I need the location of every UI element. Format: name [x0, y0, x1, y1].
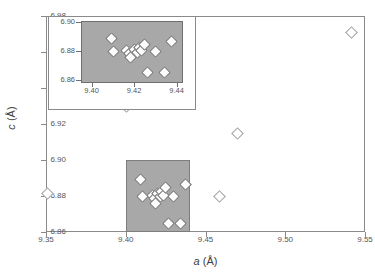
- inset-plot: 6.866.886.909.409.429.44: [48, 16, 196, 110]
- inset-y-axis-tick-label: 6.86: [45, 76, 75, 84]
- inset-y-axis-tick-label: 6.90: [45, 18, 75, 26]
- y-axis-tick-label: 6.90: [26, 156, 66, 164]
- inset-x-axis-tick-label: 9.44: [160, 87, 194, 95]
- inset-y-axis-tick: [76, 22, 81, 23]
- scatter-chart-figure: 6.866.886.906.926.946.966.989.359.409.45…: [0, 0, 375, 280]
- inset-y-axis-tick: [76, 51, 81, 52]
- x-axis-title: a (Å): [46, 255, 365, 267]
- inset-y-axis-tick: [76, 80, 81, 81]
- x-axis-tick-label: 9.40: [104, 236, 148, 244]
- inset-y-axis-tick-label: 6.88: [45, 47, 75, 55]
- inset-x-axis-tick-label: 9.40: [75, 87, 109, 95]
- x-axis-tick-label: 9.35: [24, 236, 68, 244]
- x-axis-tick-label: 9.45: [184, 236, 228, 244]
- y-axis-tick-label: 6.92: [26, 120, 66, 128]
- y-axis-title: c (Å): [5, 83, 17, 153]
- x-axis-tick-label: 9.55: [343, 236, 375, 244]
- inset-x-axis-tick-label: 9.42: [117, 87, 151, 95]
- x-axis-tick-label: 9.50: [263, 236, 307, 244]
